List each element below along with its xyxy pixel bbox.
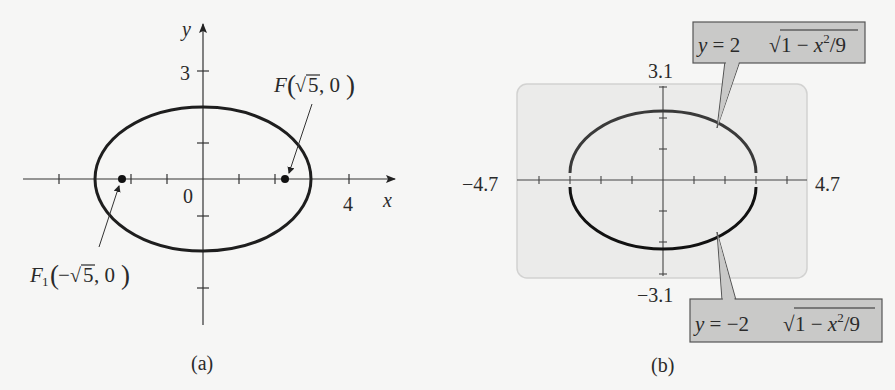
svg-text:√: √ xyxy=(769,33,781,57)
figure: y x 3 0 4 F ( √ 5 , 0 ) F 1 ( − √ 5 , 0 … xyxy=(0,0,895,390)
focus-right-label: F ( √ 5 , 0 ) xyxy=(273,70,355,100)
tick-label-3: 3 xyxy=(180,62,190,84)
svg-text:5: 5 xyxy=(308,73,319,97)
xmin-label: −4.7 xyxy=(462,173,498,195)
panel-a: y x 3 0 4 F ( √ 5 , 0 ) F 1 ( − √ 5 , 0 … xyxy=(23,18,395,375)
svg-text:5: 5 xyxy=(83,263,94,287)
y-axis-label: y xyxy=(180,18,191,41)
tick-label-4: 4 xyxy=(343,193,353,215)
focus-left-pointer xyxy=(99,186,119,247)
svg-text:F: F xyxy=(273,73,287,97)
svg-text:, 0: , 0 xyxy=(319,73,340,97)
svg-text:F: F xyxy=(29,263,43,287)
focus-left-label: F 1 ( − √ 5 , 0 ) xyxy=(29,260,130,290)
panel-a-caption: (a) xyxy=(191,352,213,375)
panel-b: 3.1 −3.1 −4.7 4.7 y = 2 √ 1 − x2/9 y = −… xyxy=(462,22,882,377)
svg-text:√: √ xyxy=(295,74,306,96)
svg-text:−: − xyxy=(58,263,70,287)
ymax-label: 3.1 xyxy=(648,60,673,82)
svg-text:y = −2: y = −2 xyxy=(693,312,749,336)
tick-label-0: 0 xyxy=(183,185,193,207)
svg-text:1 − x2/9: 1 − x2/9 xyxy=(781,31,846,57)
focus-point-right xyxy=(281,175,289,183)
svg-text:1: 1 xyxy=(42,274,49,289)
focus-point-left xyxy=(118,175,126,183)
svg-text:√: √ xyxy=(70,264,81,286)
panel-b-caption: (b) xyxy=(651,354,674,377)
svg-text:): ) xyxy=(346,70,355,100)
x-axis-label: x xyxy=(382,189,392,211)
svg-text:y = 2: y = 2 xyxy=(696,33,740,57)
svg-text:): ) xyxy=(121,260,130,290)
ymin-label: −3.1 xyxy=(637,284,673,306)
svg-text:, 0: , 0 xyxy=(94,263,115,287)
xmax-label: 4.7 xyxy=(815,173,840,195)
svg-text:√: √ xyxy=(783,312,795,336)
svg-text:1 − x2/9: 1 − x2/9 xyxy=(795,310,860,336)
